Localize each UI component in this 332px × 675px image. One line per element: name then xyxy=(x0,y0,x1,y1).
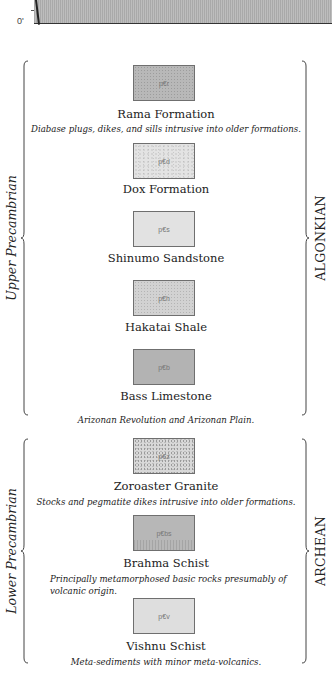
swatch-bass-limestone: p€b xyxy=(133,349,195,385)
formation-name-rama: Rama Formation xyxy=(0,107,332,121)
swatch-shinumo-sandstone: p€s xyxy=(133,211,195,247)
formation-description-brahma: Principally metamorphosed basic rocks pr… xyxy=(50,573,290,597)
formation-name-vishnu: Vishnu Schist xyxy=(0,639,332,653)
swatch-dox-formation: p€d xyxy=(133,143,195,179)
formation-description-rama: Diabase plugs, dikes, and sills intrusiv… xyxy=(0,124,332,134)
right-brace-archean xyxy=(300,438,310,664)
swatch-zoroaster-granite: p€z xyxy=(133,438,195,474)
swatch-rama-formation: p€r xyxy=(133,65,195,101)
map-symbol: p€z xyxy=(158,453,169,460)
map-symbol: p€v xyxy=(158,613,169,620)
map-symbol: p€r xyxy=(159,80,169,87)
baseline-elevation-label: 0' xyxy=(17,16,24,26)
era-label-lower-precambrian: Lower Precambrian xyxy=(4,488,19,613)
era-label-archean: ARCHEAN xyxy=(313,516,328,586)
map-symbol: p€s xyxy=(158,226,169,233)
formation-description-vishnu: Meta-sediments with minor meta-volcanics… xyxy=(0,657,332,667)
map-symbol: p€h xyxy=(158,295,170,302)
formation-description-zoroaster: Stocks and pegmatite dikes intrusive int… xyxy=(0,497,332,507)
axis-tick xyxy=(31,10,34,11)
formation-name-bass: Bass Limestone xyxy=(0,389,332,403)
map-symbol: p€b xyxy=(158,364,170,371)
swatch-vishnu-schist: p€v xyxy=(133,598,195,634)
formation-name-zoroaster: Zoroaster Granite xyxy=(0,479,332,493)
era-label-algonkian: ALGONKIAN xyxy=(313,195,328,280)
section-chart-fill xyxy=(34,0,332,24)
formation-name-shinumo: Shinumo Sandstone xyxy=(0,251,332,265)
formation-name-hakatai: Hakatai Shale xyxy=(0,320,332,334)
swatch-brahma-schist: p€bs xyxy=(133,515,195,551)
map-symbol: p€bs xyxy=(156,530,171,537)
left-brace-lower xyxy=(20,438,30,664)
formation-name-brahma: Brahma Schist xyxy=(0,556,332,570)
formation-name-dox: Dox Formation xyxy=(0,182,332,196)
unconformity-note: Arizonan Revolution and Arizonan Plain. xyxy=(0,415,332,425)
map-symbol: p€d xyxy=(158,158,170,165)
swatch-hakatai-shale: p€h xyxy=(133,280,195,316)
